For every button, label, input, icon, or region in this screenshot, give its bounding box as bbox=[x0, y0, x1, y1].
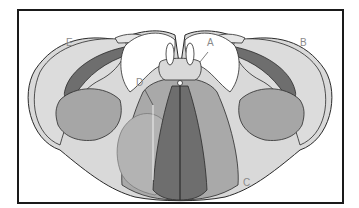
label-c: C bbox=[243, 178, 250, 188]
label-d: D bbox=[136, 78, 143, 88]
diagram-figure: E A B D C bbox=[0, 0, 359, 208]
cross-section-drawing bbox=[0, 0, 359, 208]
label-b: B bbox=[300, 38, 307, 48]
left-canal-lobe bbox=[166, 43, 174, 65]
central-canal bbox=[178, 81, 183, 86]
label-a: A bbox=[207, 38, 214, 48]
right-canal-lobe bbox=[186, 43, 194, 65]
label-e: E bbox=[66, 38, 73, 48]
central-canal-body bbox=[159, 58, 201, 80]
